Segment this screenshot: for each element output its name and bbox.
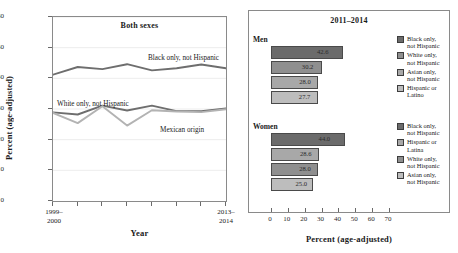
legend-label: Asian only, not Hispanic (407, 68, 439, 82)
line-series-0 (53, 64, 226, 75)
bar-row: 30.2 (271, 61, 322, 74)
y-tickmark-50 (48, 47, 52, 48)
legend-label: Hispanic or Latino (407, 84, 437, 98)
legend-item: Hispanic or Latino (397, 84, 458, 98)
y-tickmark-40 (48, 77, 52, 78)
legend-item: Black only, not Hispanic (397, 35, 458, 49)
legend-label: Black only, not Hispanic (407, 122, 439, 136)
y-tickmark-30 (48, 108, 52, 109)
bar-value-label: 42.6 (317, 48, 329, 55)
y-tickmark-0 (48, 200, 52, 201)
bar-row: 28.0 (271, 76, 318, 89)
legend-swatch-icon (397, 172, 404, 179)
legend-label: White only, not Hispanic (407, 155, 439, 169)
legend-label: Black only, not Hispanic (407, 35, 439, 49)
y-tick-60: 60 (0, 12, 4, 20)
x-tickmark-2 (101, 202, 102, 206)
bar (271, 61, 322, 74)
bar-row: 44.0 (271, 133, 345, 146)
legend-men: Black only, not HispanicWhite only, not … (397, 35, 458, 101)
legend-item: Black only, not Hispanic (397, 122, 458, 136)
series-label-white: White only, not Hispanic (57, 100, 129, 108)
legend-item: Hispanic or Latina (397, 138, 458, 152)
series-label-black: Black only, not Hispanic (148, 54, 219, 62)
bar-row: 28.6 (271, 148, 319, 161)
x-tickmark-6 (200, 202, 201, 206)
bar-x-tick-label-70: 70 (378, 215, 398, 223)
bar-row: 28.0 (271, 163, 318, 176)
legend-swatch-icon (397, 85, 404, 92)
y-tick-40: 40 (0, 73, 4, 81)
bar-value-label: 28.6 (300, 150, 312, 157)
x-tickmark-5 (176, 202, 177, 206)
bar-chart-panel: 2011–2014 Men Women 42.630.228.027.7 44.… (240, 0, 458, 253)
legend-swatch-icon (397, 69, 404, 76)
legend-label: Hispanic or Latina (407, 138, 437, 152)
bar (271, 46, 343, 59)
y-tick-50: 50 (0, 43, 4, 51)
x-tickmark-7 (225, 202, 226, 206)
x-tick-label-first: 1999– 2000 (34, 208, 74, 226)
line-chart-panel: Percent (age-adjusted) Both sexes 605040… (0, 0, 236, 253)
series-label-mexican: Mexican origin (160, 126, 204, 134)
legend-swatch-icon (397, 52, 404, 59)
bar-value-label: 25.0 (296, 180, 308, 187)
y-tick-30: 30 (0, 104, 4, 112)
bar-value-label: 44.0 (319, 135, 331, 142)
bar (271, 148, 319, 161)
bar-value-label: 30.2 (302, 63, 314, 70)
bar-value-label: 27.7 (299, 93, 311, 100)
bar-x-tickmark-40 (338, 208, 339, 212)
x-axis-title: Year (52, 228, 227, 238)
legend-swatch-icon (397, 139, 404, 146)
bar-x-tickmark-30 (322, 208, 323, 212)
bar-x-tickmark-0 (271, 208, 272, 212)
legend-item: White only, not Hispanic (397, 51, 458, 65)
bar-x-tickmark-70 (389, 208, 390, 212)
figure-container: Percent (age-adjusted) Both sexes 605040… (0, 0, 458, 253)
x-tickmark-1 (77, 202, 78, 206)
legend-label: White only, not Hispanic (407, 51, 439, 65)
line-series-svg (53, 17, 226, 201)
bar-chart-title: 2011–2014 (249, 16, 449, 25)
y-tickmark-20 (48, 139, 52, 140)
legend-item: Asian only, not Hispanic (397, 68, 458, 82)
x-tickmark-0 (52, 202, 53, 206)
x-tickmark-4 (151, 202, 152, 206)
y-tick-10: 10 (0, 165, 4, 173)
legend-women: Black only, not HispanicHispanic or Lati… (397, 122, 458, 188)
group-label-women: Women (253, 122, 278, 131)
group-label-men: Men (253, 35, 268, 44)
y-tickmark-60 (48, 16, 52, 17)
legend-swatch-icon (397, 36, 404, 43)
legend-label: Asian only, not Hispanic (407, 171, 439, 185)
bar-row: 25.0 (271, 178, 313, 191)
bar-plot-area: 2011–2014 Men Women 42.630.228.027.7 44.… (248, 10, 450, 213)
bar (271, 133, 345, 146)
legend-swatch-icon (397, 156, 404, 163)
bar-row: 42.6 (271, 46, 343, 59)
bar-x-tickmark-10 (288, 208, 289, 212)
bar-x-tickmark-60 (372, 208, 373, 212)
x-tick-first-line2: 2000 (34, 217, 74, 226)
bar-x-axis-title: Percent (age-adjusted) (248, 234, 450, 244)
y-tickmark-10 (48, 169, 52, 170)
bar-x-tickmark-50 (355, 208, 356, 212)
legend-item: Asian only, not Hispanic (397, 171, 458, 185)
y-tick-0: 0 (0, 196, 4, 204)
bar-value-label: 28.0 (299, 165, 311, 172)
x-tick-first-line1: 1999– (34, 208, 74, 217)
legend-swatch-icon (397, 123, 404, 130)
legend-item: White only, not Hispanic (397, 155, 458, 169)
bar-row: 27.7 (271, 91, 318, 104)
bar-x-tickmark-20 (305, 208, 306, 212)
bar-value-label: 28.0 (299, 78, 311, 85)
y-axis-title: Percent (age-adjusted) (2, 38, 16, 198)
line-plot-area: Both sexes (52, 16, 227, 202)
x-tickmark-3 (126, 202, 127, 206)
y-tick-20: 20 (0, 135, 4, 143)
